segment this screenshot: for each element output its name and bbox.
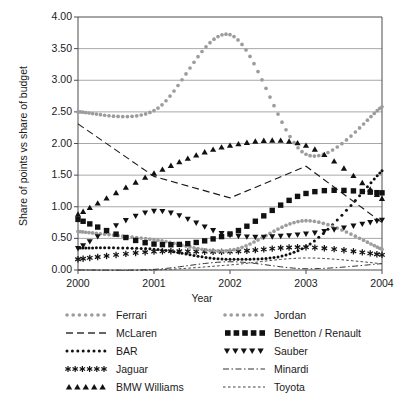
data-marker-asterisk bbox=[87, 255, 93, 261]
data-marker-square bbox=[303, 191, 308, 196]
legend-entry-ferrari[interactable]: Ferrari bbox=[64, 306, 222, 324]
data-marker-dotted-round-marker bbox=[345, 138, 349, 142]
data-marker-dotted-small bbox=[269, 257, 272, 260]
data-marker-dotted-round-marker bbox=[296, 220, 300, 224]
legend-entry-mclaren[interactable]: McLaren bbox=[64, 324, 222, 342]
data-marker-triangle-up bbox=[95, 200, 101, 205]
data-marker-dotted-small bbox=[95, 246, 98, 249]
data-marker-triangle-down bbox=[202, 224, 208, 229]
legend-entry-benetton-renault[interactable]: Benetton / Renault bbox=[222, 324, 394, 342]
data-marker-square bbox=[322, 188, 327, 193]
data-marker-dotted-small bbox=[112, 246, 115, 249]
y-tick-label: 4.00 bbox=[38, 11, 72, 21]
data-marker-dotted-round-marker bbox=[91, 231, 95, 235]
data-marker-dotted-round-marker bbox=[331, 148, 335, 152]
data-marker-square bbox=[168, 242, 173, 247]
data-marker-dotted-round-marker bbox=[236, 247, 240, 251]
legend-entry-jordan[interactable]: Jordan bbox=[222, 306, 394, 324]
legend-entry-jaguar[interactable]: Jaguar bbox=[64, 360, 222, 378]
data-marker-dotted-round-marker bbox=[280, 120, 284, 124]
data-marker-dotted-round-marker bbox=[196, 55, 200, 59]
data-marker-dotted-round-marker bbox=[87, 231, 91, 235]
legend-entry-toyota[interactable]: Toyota bbox=[222, 378, 394, 396]
data-marker-triangle-down bbox=[367, 220, 373, 225]
legend-entry-minardi[interactable]: Minardi bbox=[222, 360, 394, 378]
data-marker-asterisk bbox=[341, 247, 347, 253]
data-marker-asterisk bbox=[80, 255, 86, 261]
data-marker-dotted-round-marker bbox=[272, 104, 276, 108]
data-marker-dotted-round-marker bbox=[276, 227, 280, 231]
data-marker-dotted-small bbox=[209, 256, 212, 259]
data-marker-dotted-small bbox=[261, 257, 264, 260]
data-marker-square bbox=[75, 217, 80, 222]
data-marker-triangle-up bbox=[193, 152, 199, 157]
data-marker-dotted-round-marker bbox=[204, 45, 208, 49]
data-marker-dotted-round-marker bbox=[135, 114, 139, 118]
data-marker-asterisk bbox=[331, 246, 337, 252]
data-marker-dotted-small bbox=[148, 247, 151, 250]
data-marker-triangle-down bbox=[123, 218, 129, 223]
data-marker-asterisk bbox=[244, 248, 250, 254]
data-marker-dotted-round-marker bbox=[172, 89, 176, 93]
x-tick-label: 2003 bbox=[283, 277, 329, 289]
data-marker-triangle-up bbox=[210, 146, 216, 151]
data-marker-dotted-round-marker bbox=[284, 224, 288, 228]
data-marker-asterisk bbox=[261, 246, 267, 252]
data-marker-triangle-up bbox=[312, 146, 318, 151]
legend-entry-bar[interactable]: BAR bbox=[64, 342, 222, 360]
data-marker-dotted-small bbox=[265, 257, 268, 260]
series-sauber bbox=[75, 209, 385, 252]
data-marker-dotted-small bbox=[340, 214, 343, 217]
data-marker-triangle-down bbox=[244, 234, 250, 239]
data-marker-dotted-small bbox=[313, 239, 316, 242]
data-marker-square bbox=[95, 224, 100, 229]
data-marker-dotted-small bbox=[193, 254, 196, 257]
data-marker-dotted-round-marker bbox=[212, 249, 216, 253]
data-marker-dotted-round-marker bbox=[292, 221, 296, 225]
data-marker-square bbox=[331, 188, 336, 193]
data-marker-triangle-up bbox=[185, 155, 191, 160]
legend-entry-sauber[interactable]: Sauber bbox=[222, 342, 394, 360]
legend-label: Minardi bbox=[266, 363, 308, 375]
series-line bbox=[78, 262, 382, 270]
data-marker-dotted-round-marker bbox=[139, 113, 143, 117]
series-bar bbox=[77, 169, 384, 261]
data-marker-dotted-round-marker bbox=[280, 225, 284, 229]
legend-entry-bmw-williams[interactable]: BMW Williams bbox=[64, 378, 222, 396]
data-marker-dotted-small bbox=[197, 255, 200, 258]
data-marker-dotted-round-marker bbox=[208, 41, 212, 45]
data-marker-dotted-round-marker bbox=[321, 221, 325, 225]
data-marker-dotted-round-marker bbox=[99, 113, 103, 117]
data-marker-dotted-round-marker bbox=[103, 113, 107, 117]
data-marker-dotted-small bbox=[293, 251, 296, 254]
data-marker-triangle-down bbox=[113, 223, 119, 228]
data-marker-triangle-up bbox=[159, 166, 165, 171]
x-tick-label: 2000 bbox=[55, 277, 101, 289]
data-marker-dotted-small bbox=[126, 247, 129, 250]
data-marker-dotted-round-marker bbox=[200, 247, 204, 251]
data-marker-triangle-down bbox=[142, 210, 148, 215]
data-marker-dotted-round-marker bbox=[362, 238, 366, 242]
data-marker-dotted-small bbox=[281, 255, 284, 258]
data-marker-dotted-round-marker bbox=[380, 105, 384, 109]
x-axis-title: Year bbox=[0, 292, 404, 304]
data-marker-asterisk bbox=[269, 245, 275, 251]
data-marker-dotted-round-marker bbox=[288, 222, 292, 226]
data-marker-dotted-round-marker bbox=[244, 48, 248, 52]
data-marker-triangle-down bbox=[151, 209, 157, 214]
data-marker-dotted-round-marker bbox=[304, 219, 308, 223]
data-marker-triangle-up bbox=[331, 158, 337, 163]
data-marker-dotted-small bbox=[117, 246, 120, 249]
data-marker-square bbox=[194, 240, 199, 245]
data-marker-dotted-small bbox=[84, 246, 87, 249]
data-marker-dotted-round-marker bbox=[380, 247, 384, 251]
data-marker-dotted-small bbox=[91, 246, 94, 249]
data-marker-dotted-round-marker bbox=[362, 122, 366, 126]
data-marker-dotted-small bbox=[376, 174, 379, 177]
data-marker-dotted-small bbox=[369, 181, 372, 184]
data-marker-dotted-small bbox=[225, 258, 228, 261]
data-marker-dotted-round-marker bbox=[248, 242, 252, 246]
legend-swatch-icon bbox=[222, 380, 266, 394]
x-tick-label: 2004 bbox=[359, 277, 404, 289]
data-marker-square bbox=[133, 238, 138, 243]
